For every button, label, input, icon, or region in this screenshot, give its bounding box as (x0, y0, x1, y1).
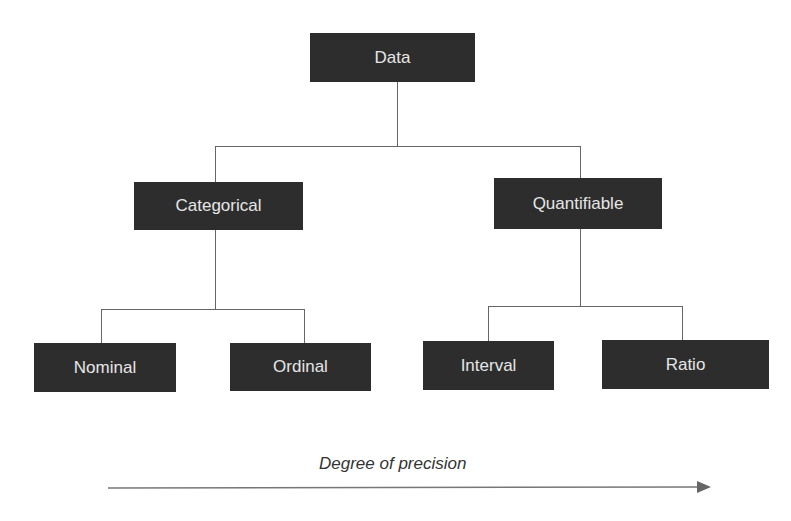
precision-arrow-icon (0, 0, 791, 521)
